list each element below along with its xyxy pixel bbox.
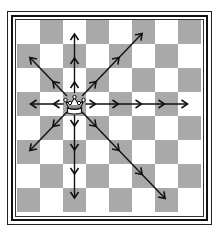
board-square <box>155 164 178 188</box>
board-square <box>86 164 109 188</box>
board-square <box>17 164 40 188</box>
board-square <box>17 68 40 92</box>
board-square <box>155 68 178 92</box>
board-square <box>132 44 155 68</box>
board-square <box>109 116 132 140</box>
board-square <box>155 44 178 68</box>
board-square <box>40 140 63 164</box>
board-square <box>132 116 155 140</box>
board-square <box>155 20 178 44</box>
board-square <box>178 116 201 140</box>
board-square <box>178 44 201 68</box>
board-square <box>178 140 201 164</box>
board-square <box>86 140 109 164</box>
board-square <box>109 68 132 92</box>
board-square <box>86 188 109 212</box>
board-square <box>178 188 201 212</box>
board-squares <box>17 20 201 212</box>
board-square <box>17 188 40 212</box>
board-square <box>178 164 201 188</box>
board-square <box>155 140 178 164</box>
board-square <box>86 20 109 44</box>
board-square <box>132 140 155 164</box>
board-square <box>178 20 201 44</box>
board-square <box>132 68 155 92</box>
board-square <box>40 44 63 68</box>
board-square <box>17 116 40 140</box>
chess-board <box>17 20 201 212</box>
board-square <box>40 164 63 188</box>
board-square <box>17 20 40 44</box>
board-square <box>109 20 132 44</box>
board-square <box>40 188 63 212</box>
board-square <box>132 188 155 212</box>
board-square <box>86 44 109 68</box>
board-square <box>40 20 63 44</box>
board-square <box>155 116 178 140</box>
board-square <box>178 68 201 92</box>
board-square <box>109 164 132 188</box>
board-square <box>109 188 132 212</box>
